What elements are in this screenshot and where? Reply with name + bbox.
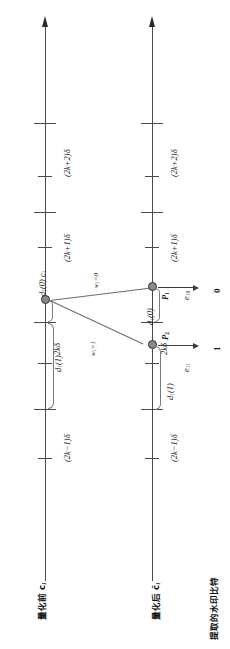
axis2-tick-major-1	[141, 123, 163, 124]
axis1-tick-major-4	[34, 409, 56, 410]
axis2-tick-label-2k-plus-1: (2k+1)δ	[170, 234, 179, 262]
caption-after-quantization: 量化后 c̄1	[152, 582, 161, 620]
watermark-bit-zero-label: w1=0	[93, 273, 100, 288]
axis1-label-d1-0-c1: d1(0) c1	[38, 271, 47, 296]
leader-c1-to-p1	[50, 288, 149, 301]
axis2-label-p2: P2	[161, 332, 170, 340]
axis2-tick-minor-4	[145, 458, 159, 459]
axis2-label-e11: e11	[182, 363, 191, 372]
axis1-tick-minor-1	[38, 176, 52, 177]
axis2-label-p1: P1	[161, 292, 170, 300]
axis1-tick-minor-4	[38, 458, 52, 459]
axis1-tick-label-2k-plus-1: (2k+1)δ	[63, 234, 72, 262]
caption-before-quantization: 量化前 c1	[38, 582, 47, 620]
axis2-label-d1-1: d1(1)	[166, 383, 175, 400]
axis2-label-d1-0: d1(0)	[146, 308, 155, 325]
watermark-bit-one-label: w1=1	[90, 341, 97, 356]
leader-c1-to-p2	[50, 300, 144, 344]
axis-after-quantization-arrowhead	[149, 16, 155, 27]
figure-canvas: (2k+2)δ (2k+1)δ 2kδ (2k−1)δ d1(0) c1 d1(…	[0, 0, 230, 649]
axis1-tick-label-2k-minus-1: (2k−1)δ	[63, 434, 72, 462]
axis2-brace-d1-0	[155, 288, 160, 322]
axis1-tick-label-2k: 2kδ	[53, 343, 62, 355]
axis2-tick-minor-1	[145, 176, 159, 177]
axis1-tick-label-2k-plus-2: (2k+2)δ	[63, 149, 72, 177]
axis1-brace-d1-1	[48, 323, 54, 409]
axis1-brace-d1-0	[48, 300, 53, 322]
axis2-tick-major-4	[141, 409, 163, 410]
axis2-tick-label-2k-minus-1: (2k−1)δ	[170, 434, 179, 462]
output-arrow-head-0	[193, 285, 199, 291]
axis1-label-d1-1: d1(1)	[54, 355, 63, 372]
axis1-tick-major-1	[34, 123, 56, 124]
output-bit-1: 1	[213, 347, 222, 352]
output-bit-0: 0	[213, 289, 222, 294]
axis1-tick-minor-2	[38, 247, 52, 248]
output-arrow-line-1	[158, 345, 194, 346]
axis1-tick-major-2	[34, 212, 56, 213]
output-arrow-head-1	[193, 343, 199, 349]
caption-extracted-watermark-bits: 提取的水印比特	[210, 577, 219, 640]
axis1-tick-major-3	[34, 322, 56, 323]
axis2-tick-major-2	[141, 212, 163, 213]
axis-after-quantization-line	[152, 26, 153, 581]
output-arrow-line-0	[158, 287, 194, 288]
axis2-brace-d1-1	[155, 346, 161, 410]
axis2-tick-minor-2	[145, 247, 159, 248]
axis2-label-e10: e10	[182, 291, 191, 300]
axis-before-quantization-arrowhead	[42, 16, 48, 27]
axis2-tick-label-2k-plus-2: (2k+2)δ	[170, 149, 179, 177]
